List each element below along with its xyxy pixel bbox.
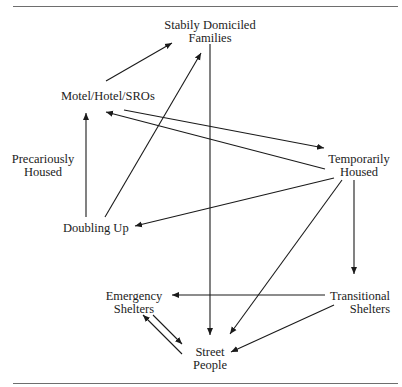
node-motel-line1: Motel/Hotel/SROs <box>61 90 155 103</box>
node-stably-domiciled-families: Stabily Domiciled Families <box>160 19 260 44</box>
node-stably-line2: Families <box>160 32 260 45</box>
edges-layer <box>0 0 402 387</box>
node-precariously-line2: Housed <box>10 166 76 179</box>
edge-street-to-emergency <box>143 315 182 354</box>
node-street-line1: Street <box>186 346 234 359</box>
node-stably-line1: Stabily Domiciled <box>160 19 260 32</box>
node-emergency-shelters: Emergency Shelters <box>104 290 164 315</box>
node-street-people: Street People <box>186 346 234 371</box>
node-precariously-line1: Precariously <box>10 153 76 166</box>
node-emergency-line2: Shelters <box>104 303 164 316</box>
node-temporarily-line2: Housed <box>327 166 391 179</box>
node-street-line2: People <box>186 359 234 372</box>
node-motel-hotel-sros: Motel/Hotel/SROs <box>61 90 155 103</box>
node-doubling-up: Doubling Up <box>63 222 129 235</box>
node-transitional-line1: Transitional <box>326 290 390 303</box>
diagram-canvas: Stabily Domiciled Families Motel/Hotel/S… <box>0 0 402 387</box>
node-doubling-line1: Doubling Up <box>63 222 129 235</box>
edge-temporarily-to-motel <box>106 112 325 169</box>
node-temporarily-line1: Temporarily <box>327 153 391 166</box>
node-temporarily-housed: Temporarily Housed <box>327 153 391 178</box>
node-transitional-shelters: Transitional Shelters <box>326 290 390 315</box>
edge-temporarily-to-doubling <box>135 178 334 226</box>
node-transitional-line2: Shelters <box>326 303 390 316</box>
edge-motel-to-stably <box>106 43 172 81</box>
node-precariously-housed: Precariously Housed <box>10 153 76 178</box>
edge-doubling-to-stably <box>105 53 201 217</box>
node-emergency-line1: Emergency <box>104 290 164 303</box>
